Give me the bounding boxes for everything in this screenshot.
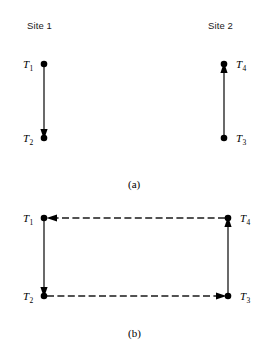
graph-node-b-t1 <box>41 215 48 222</box>
graph-node-b-t2 <box>41 293 48 300</box>
graph-canvas <box>0 0 267 352</box>
graph-node-a-t2 <box>41 135 48 142</box>
graph-node-b-t3 <box>225 293 232 300</box>
panel-a-edge-t3-t4 <box>220 63 227 136</box>
panel-a-edge-t1-t2 <box>40 67 47 140</box>
graph-node-a-t3 <box>221 135 228 142</box>
panel-b-edge-t4-t1-dashed <box>47 214 226 221</box>
panel-b-edge-t1-t2 <box>40 221 47 298</box>
graph-node-a-t1 <box>41 61 48 68</box>
panel-b-edge-t3-t4 <box>224 217 231 294</box>
figure-container: Site 1 Site 2 T1 T2 T4 T3 T1 T2 T4 T3 (a… <box>0 0 267 352</box>
graph-node-b-t4 <box>225 215 232 222</box>
graph-node-a-t4 <box>221 61 228 68</box>
panel-b-edge-t2-t3-dashed <box>47 292 227 299</box>
